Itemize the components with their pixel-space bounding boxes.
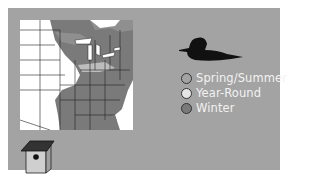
legend-label: Year-Round bbox=[196, 86, 261, 100]
circle-dark-icon bbox=[181, 103, 192, 114]
legend-item-year-round: Year-Round bbox=[181, 86, 287, 100]
legend-item-spring-summer: Spring/Summer bbox=[181, 71, 287, 85]
circle-light-icon bbox=[181, 88, 192, 99]
birdhouse-icon bbox=[20, 135, 56, 175]
circle-outline-icon bbox=[181, 73, 192, 84]
legend-label: Spring/Summer bbox=[196, 71, 287, 85]
eastern-us-map-icon bbox=[20, 20, 133, 130]
legend-label: Winter bbox=[196, 101, 235, 115]
duck-silhouette-icon bbox=[177, 30, 247, 62]
legend-item-winter: Winter bbox=[181, 101, 287, 115]
legend: Spring/Summer Year-Round Winter bbox=[181, 71, 287, 116]
range-map bbox=[20, 20, 133, 130]
